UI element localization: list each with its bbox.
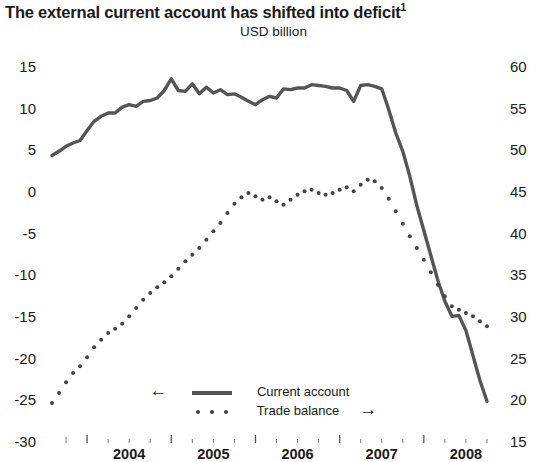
legend-arrow-left-icon: ←	[150, 381, 184, 401]
right-axis-tick-0: 60	[510, 58, 547, 75]
right-axis-tick-8: 20	[510, 391, 547, 408]
x-axis-tick-2008: 2008	[426, 446, 506, 462]
left-axis-tick-8: -25	[0, 391, 36, 408]
left-axis-tick-5: -10	[0, 266, 36, 283]
left-axis-tick-0: 15	[0, 58, 36, 75]
right-axis-tick-5: 35	[510, 266, 547, 283]
left-axis-tick-4: -5	[0, 225, 36, 242]
legend-label-current-account: Current account	[257, 384, 350, 399]
right-axis-tick-1: 55	[510, 100, 547, 117]
left-axis-tick-1: 10	[0, 100, 36, 117]
chart-container: The external current account has shifted…	[0, 0, 547, 462]
legend-item-current-account: ← Current account	[150, 381, 349, 401]
right-axis-tick-6: 30	[510, 308, 547, 325]
x-axis-tick-2007: 2007	[342, 446, 422, 462]
right-axis-tick-7: 25	[510, 350, 547, 367]
right-axis-tick-3: 45	[510, 183, 547, 200]
legend-item-trade-balance: Trade balance →	[150, 400, 377, 420]
right-axis-tick-9: 15	[510, 433, 547, 450]
left-axis-tick-6: -15	[0, 308, 36, 325]
legend-solid-line-swatch	[188, 387, 236, 399]
x-axis-tick-2006: 2006	[258, 446, 338, 462]
right-axis-tick-2: 50	[510, 141, 547, 158]
legend-dotted-line-swatch	[188, 406, 236, 418]
legend-arrow-right-icon: →	[343, 400, 377, 420]
legend-label-trade-balance: Trade balance	[257, 403, 340, 418]
left-axis-tick-2: 5	[0, 141, 36, 158]
x-axis-tick-2004: 2004	[89, 446, 169, 462]
left-axis-tick-3: 0	[0, 183, 36, 200]
left-axis-tick-7: -20	[0, 350, 36, 367]
x-axis-tick-2005: 2005	[173, 446, 253, 462]
right-axis-tick-4: 40	[510, 225, 547, 242]
left-axis-tick-9: -30	[0, 433, 36, 450]
